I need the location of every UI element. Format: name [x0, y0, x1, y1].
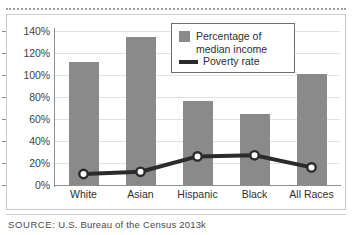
chart-page: 0%20%40%60%80%100%120%140% WhiteAsianHis…: [0, 0, 352, 235]
y-axis-tick-mark: [2, 163, 6, 164]
y-axis-tick-label: 20%: [6, 158, 50, 168]
data-point-marker: [193, 152, 201, 160]
y-axis-tick-label: 140%: [6, 26, 50, 36]
y-axis-tick-mark: [2, 31, 6, 32]
source-note: SOURCE: U.S. Bureau of the Census 2013k: [8, 219, 206, 230]
top-dotted-divider: [6, 8, 346, 10]
source-text: U.S. Bureau of the Census 2013k: [58, 219, 206, 230]
x-axis-category-label: All Races: [283, 188, 340, 201]
legend-label-percentage-of-median-income: Percentage of median income: [196, 30, 267, 55]
x-axis-line: [54, 185, 341, 186]
x-axis-category-label: White: [55, 188, 112, 201]
y-axis-tick-label: 60%: [6, 114, 50, 124]
x-axis-category-label: Hispanic: [169, 188, 226, 201]
x-axis-category-label: Asian: [112, 188, 169, 201]
y-axis-tick-label: 120%: [6, 48, 50, 58]
source-label: SOURCE:: [8, 219, 55, 230]
x-axis-category-labels: WhiteAsianHispanicBlackAll Races: [55, 188, 340, 204]
legend-label-poverty-rate: Poverty rate: [203, 55, 260, 68]
data-point-marker: [136, 168, 144, 176]
y-axis-tick-label: 40%: [6, 136, 50, 146]
chart-legend: Percentage of median income Poverty rate: [171, 23, 295, 73]
data-point-marker: [250, 151, 258, 159]
y-axis-tick-label: 80%: [6, 92, 50, 102]
data-point-marker: [307, 163, 315, 171]
source-divider: [6, 214, 346, 215]
y-axis-tick-mark: [2, 119, 6, 120]
y-axis-tick-mark: [2, 141, 6, 142]
data-point-marker: [79, 170, 87, 178]
legend-item-percentage-of-median-income: Percentage of median income: [179, 30, 267, 55]
y-axis-tick-labels: 0%20%40%60%80%100%120%140%: [2, 31, 50, 185]
legend-line-swatch-icon: [179, 60, 198, 64]
y-axis-tick-label: 100%: [6, 70, 50, 80]
y-axis-tick-mark: [2, 53, 6, 54]
y-axis-tick-mark: [2, 185, 6, 186]
y-axis-tick-label: 0%: [6, 180, 50, 190]
y-axis-tick-mark: [2, 75, 6, 76]
legend-square-swatch-icon: [179, 31, 190, 42]
legend-item-poverty-rate: Poverty rate: [179, 55, 260, 68]
y-axis-tick-mark: [2, 97, 6, 98]
x-axis-category-label: Black: [226, 188, 283, 201]
